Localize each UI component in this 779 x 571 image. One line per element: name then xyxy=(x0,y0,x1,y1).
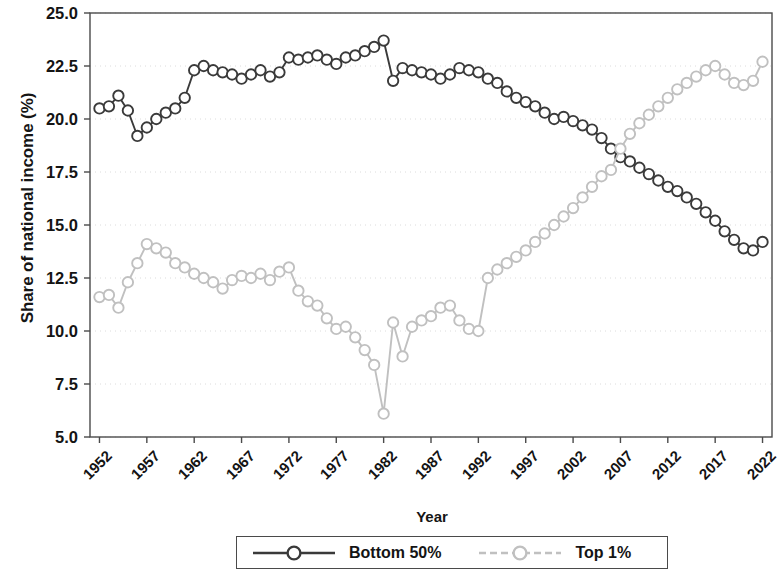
data-point xyxy=(663,93,673,103)
data-point xyxy=(502,86,512,96)
data-point xyxy=(445,300,455,310)
data-point xyxy=(653,101,663,111)
data-point xyxy=(757,57,767,67)
data-point xyxy=(634,163,644,173)
data-point xyxy=(180,262,190,272)
chart-legend: Bottom 50% Top 1% xyxy=(236,536,668,569)
data-point xyxy=(492,78,502,88)
series-bottom-50 xyxy=(94,35,767,255)
data-point xyxy=(615,143,625,153)
data-point xyxy=(568,203,578,213)
data-point xyxy=(255,65,265,75)
data-point xyxy=(530,101,540,111)
data-point xyxy=(682,192,692,202)
data-point xyxy=(596,171,606,181)
legend-item-top-1[interactable]: Top 1% xyxy=(477,537,631,568)
data-point xyxy=(104,290,114,300)
data-point xyxy=(511,252,521,262)
data-point xyxy=(521,245,531,255)
data-point xyxy=(161,247,171,257)
data-point xyxy=(331,59,341,69)
data-point xyxy=(634,118,644,128)
data-point xyxy=(682,78,692,88)
data-point xyxy=(388,76,398,86)
data-point xyxy=(748,245,758,255)
data-point xyxy=(274,67,284,77)
data-point xyxy=(445,69,455,79)
data-point xyxy=(700,207,710,217)
data-point xyxy=(378,35,388,45)
legend-swatch-bottom-50 xyxy=(251,543,337,563)
data-point xyxy=(644,169,654,179)
legend-label-top-1: Top 1% xyxy=(575,544,631,562)
data-point xyxy=(644,110,654,120)
data-point xyxy=(530,237,540,247)
data-point xyxy=(710,61,720,71)
data-point xyxy=(142,122,152,132)
data-point xyxy=(312,300,322,310)
data-point xyxy=(729,235,739,245)
data-point xyxy=(587,182,597,192)
data-point xyxy=(208,277,218,287)
data-point xyxy=(113,302,123,312)
data-point xyxy=(123,105,133,115)
data-point xyxy=(217,283,227,293)
series-line-top-1 xyxy=(99,62,762,414)
data-point xyxy=(104,101,114,111)
legend-swatch-top-1 xyxy=(477,543,563,563)
data-point xyxy=(653,175,663,185)
data-point xyxy=(539,107,549,117)
data-point xyxy=(407,322,417,332)
data-point xyxy=(284,262,294,272)
data-point xyxy=(151,114,161,124)
data-point xyxy=(606,165,616,175)
data-point xyxy=(454,315,464,325)
data-point xyxy=(123,277,133,287)
data-point xyxy=(502,258,512,268)
data-point xyxy=(625,156,635,166)
data-point xyxy=(132,131,142,141)
data-point xyxy=(359,345,369,355)
data-point xyxy=(378,408,388,418)
data-point xyxy=(719,69,729,79)
data-point xyxy=(293,286,303,296)
data-point xyxy=(710,216,720,226)
data-point xyxy=(388,317,398,327)
data-point xyxy=(255,269,265,279)
data-point xyxy=(113,90,123,100)
data-point xyxy=(691,71,701,81)
data-point xyxy=(473,67,483,77)
data-point xyxy=(397,351,407,361)
data-point xyxy=(426,311,436,321)
series-top-1 xyxy=(94,57,767,419)
data-point xyxy=(748,76,758,86)
data-point xyxy=(587,124,597,134)
data-point xyxy=(322,313,332,323)
data-point xyxy=(483,273,493,283)
data-point xyxy=(132,258,142,268)
data-point xyxy=(549,220,559,230)
legend-item-bottom-50[interactable]: Bottom 50% xyxy=(251,537,441,568)
data-point xyxy=(350,332,360,342)
data-point xyxy=(473,326,483,336)
data-point xyxy=(265,275,275,285)
data-point xyxy=(719,226,729,236)
data-point xyxy=(672,186,682,196)
data-point xyxy=(577,192,587,202)
data-point xyxy=(492,264,502,274)
data-point xyxy=(369,360,379,370)
data-point xyxy=(170,103,180,113)
data-point xyxy=(672,84,682,94)
data-point xyxy=(341,322,351,332)
data-point xyxy=(757,237,767,247)
data-point xyxy=(539,228,549,238)
legend-label-bottom-50: Bottom 50% xyxy=(349,544,441,562)
data-point xyxy=(180,93,190,103)
data-point xyxy=(596,133,606,143)
data-point xyxy=(691,199,701,209)
data-point xyxy=(625,129,635,139)
data-point xyxy=(369,42,379,52)
data-point xyxy=(558,211,568,221)
